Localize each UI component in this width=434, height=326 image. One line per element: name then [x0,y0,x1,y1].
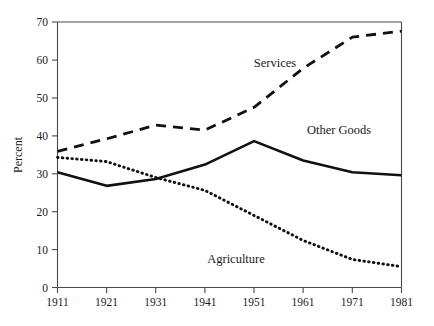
y-tick-label: 20 [37,206,49,218]
y-tick-label: 40 [37,130,49,142]
chart-page: 0 10 20 30 40 50 60 70 Percent 1911 1921… [0,0,434,326]
series-annotations: Services Other Goods Agriculture [207,56,371,266]
y-tick-label: 10 [37,244,49,256]
x-tick-label: 1951 [243,296,266,308]
series-annotation-agriculture: Agriculture [207,252,265,266]
y-tick-label: 70 [37,16,49,28]
y-axis-tick-labels: 0 10 20 30 40 50 60 70 [37,16,49,293]
plot-frame [58,22,402,288]
x-tick-label: 1971 [341,296,364,308]
x-tick-label: 1941 [193,296,216,308]
y-tick-label: 50 [37,92,49,104]
x-tick-label: 1961 [292,296,315,308]
x-axis-tick-labels: 1911 1921 1931 1941 1951 1961 1971 1981 [46,296,413,308]
y-tick-label: 30 [37,168,49,180]
series-line-agriculture [58,157,402,266]
y-tick-label: 60 [37,54,49,66]
x-tick-label: 1931 [144,296,167,308]
x-axis-ticks [58,288,402,294]
y-tick-label: 0 [42,282,48,294]
y-axis-ticks [52,22,58,288]
x-tick-label: 1981 [390,296,413,308]
series-annotation-other-goods: Other Goods [307,123,371,137]
x-tick-label: 1911 [46,296,69,308]
series-annotation-services: Services [254,56,296,70]
data-series-group [58,31,402,267]
y-axis-title: Percent [11,136,25,173]
line-chart: 0 10 20 30 40 50 60 70 Percent 1911 1921… [0,0,434,326]
x-tick-label: 1921 [95,296,118,308]
